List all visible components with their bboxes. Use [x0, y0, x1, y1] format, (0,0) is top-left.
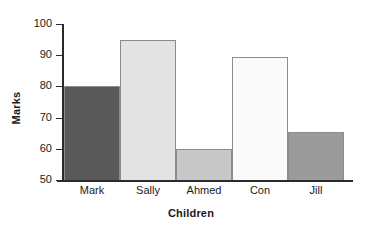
y-axis-tick-label: 90: [6, 49, 52, 60]
y-axis-tick-label-wrap: 60: [0, 143, 52, 154]
x-axis-category-label: Ahmed: [176, 184, 232, 196]
y-axis-tick: [56, 24, 63, 25]
bar: [64, 86, 120, 180]
x-axis-title: Children: [0, 207, 382, 219]
bar-series: [64, 24, 344, 180]
y-axis-tick-label: 70: [6, 112, 52, 123]
y-axis-tick-label-wrap: 80: [0, 80, 52, 91]
y-axis-tick-label-wrap: 70: [0, 112, 52, 123]
x-axis-category-label: Mark: [64, 184, 120, 196]
y-axis-tick: [56, 149, 63, 150]
bar: [120, 40, 176, 180]
y-axis-tick-label-wrap: 50: [0, 174, 52, 185]
y-axis-tick-label: 100: [6, 18, 52, 29]
bar-chart: Marks 1009080706050 MarkSallyAhmedConJil…: [0, 0, 382, 236]
y-axis-tick: [56, 118, 63, 119]
y-axis-tick: [56, 55, 63, 56]
y-axis-tick: [56, 180, 63, 181]
bar: [288, 132, 344, 180]
y-axis-tick-label: 50: [6, 174, 52, 185]
bar: [176, 149, 232, 180]
x-axis-category-label: Sally: [120, 184, 176, 196]
x-axis-category-label: Con: [232, 184, 288, 196]
y-axis-tick-label: 80: [6, 80, 52, 91]
x-axis-line: [57, 180, 353, 182]
x-axis-category-label: Jill: [288, 184, 344, 196]
bar: [232, 57, 288, 180]
y-axis-tick-label: 60: [6, 143, 52, 154]
y-axis-tick-label-wrap: 90: [0, 49, 52, 60]
y-axis-tick-label-wrap: 100: [0, 18, 52, 29]
y-axis-tick: [56, 86, 63, 87]
